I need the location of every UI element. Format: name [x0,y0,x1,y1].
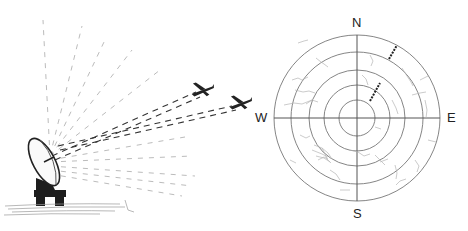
radar-antenna-icon [22,134,66,206]
compass-west-label: W [255,111,267,124]
aircraft-icon [227,91,254,113]
target-blip-inner [370,83,380,101]
target-beams [52,92,236,160]
ground-strokes [4,200,134,215]
ground-clutter [284,40,436,190]
aircraft-icon [189,78,216,100]
compass-north-label: N [352,16,361,29]
ppi-radar-scope [274,35,440,201]
target-blip-outer [389,45,397,59]
compass-south-label: S [353,207,362,220]
compass-east-label: E [447,111,456,124]
radar-rays [43,20,195,196]
radar-diagram [0,0,468,231]
